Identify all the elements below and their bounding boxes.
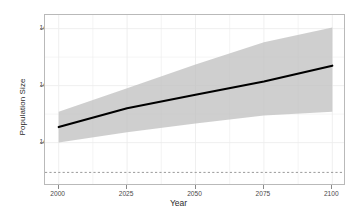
x-tick-label: 2025 — [106, 190, 146, 197]
x-axis-title: Year — [0, 198, 357, 208]
x-tick — [195, 185, 196, 189]
x-tick — [331, 185, 332, 189]
x-tick — [263, 185, 264, 189]
x-tick-label: 2050 — [175, 190, 215, 197]
plot-panel — [44, 14, 345, 185]
x-tick-label: 2075 — [243, 190, 283, 197]
x-tick — [58, 185, 59, 189]
x-tick-label: 2000 — [38, 190, 78, 197]
plot-canvas — [45, 15, 345, 185]
x-tick — [126, 185, 127, 189]
y-axis-title: Population Size — [18, 47, 27, 167]
chart-figure: Population Size 1e+051e+071e+09 20002025… — [0, 0, 357, 213]
x-tick-label: 2100 — [311, 190, 351, 197]
